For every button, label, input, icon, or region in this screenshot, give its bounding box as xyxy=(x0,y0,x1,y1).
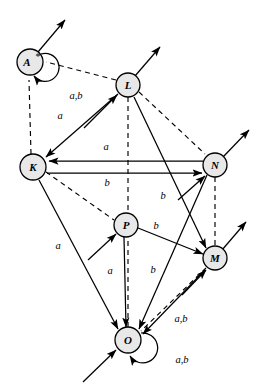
node-K-label: K xyxy=(28,161,37,173)
dashed-edge-K-A xyxy=(29,80,31,154)
node-O-label: O xyxy=(124,334,132,346)
dashed-edge-L-A xyxy=(46,62,116,80)
external-arrow-out-N xyxy=(223,130,249,157)
external-arrow-in-O xyxy=(83,350,116,382)
external-arrow-in-M xyxy=(182,270,206,295)
edge-label-L-to-K: a xyxy=(57,110,62,121)
node-A-star: * xyxy=(36,51,41,62)
external-arrow-group xyxy=(38,20,249,382)
dashed-edge-L-N xyxy=(139,92,205,154)
diagram-canvas: A * L K N P M O a a b b xyxy=(0,0,266,388)
node-A-label: A xyxy=(22,56,30,68)
node-P-label: P xyxy=(123,219,130,231)
node-N[interactable]: N xyxy=(203,153,227,177)
node-M-label: M xyxy=(209,252,221,264)
node-A[interactable]: A * xyxy=(17,49,43,75)
state-transition-diagram: A * L K N P M O a a b b xyxy=(0,0,266,388)
external-arrow-out-M xyxy=(222,222,246,250)
node-L-label: L xyxy=(124,79,132,91)
edge-label-N-to-O: b xyxy=(150,264,155,275)
edge-label-P-to-O: a xyxy=(107,265,112,276)
edge-label-K-to-N: b xyxy=(104,177,109,188)
node-N-label: N xyxy=(210,159,220,171)
self-loop-label-A: a,b xyxy=(69,90,82,101)
dashed-edge-group xyxy=(29,62,215,331)
node-O[interactable]: O xyxy=(115,327,141,353)
edge-label-K-to-O: a xyxy=(55,240,60,251)
self-loop-label-O: a,b xyxy=(175,354,188,365)
edge-label-N-to-K: a xyxy=(103,141,108,152)
edge-M-to-O xyxy=(143,270,205,334)
node-M[interactable]: M xyxy=(203,246,227,270)
node-K[interactable]: K xyxy=(20,154,46,180)
edge-P-to-O xyxy=(124,237,126,327)
node-P[interactable]: P xyxy=(114,213,138,237)
edge-K-to-O xyxy=(39,180,118,329)
edge-label-P-to-M: b xyxy=(153,220,158,231)
external-arrow-out-A xyxy=(38,20,65,52)
edge-label-L-to-M: b xyxy=(160,190,165,201)
external-arrow-in-L xyxy=(84,95,117,128)
node-L[interactable]: L xyxy=(116,73,140,97)
edge-P-to-M xyxy=(138,228,203,254)
external-arrow-out-L xyxy=(135,47,160,76)
edge-label-M-to-O: a,b xyxy=(174,313,187,324)
external-arrow-in-P xyxy=(88,234,116,260)
self-loop-group xyxy=(34,53,158,363)
